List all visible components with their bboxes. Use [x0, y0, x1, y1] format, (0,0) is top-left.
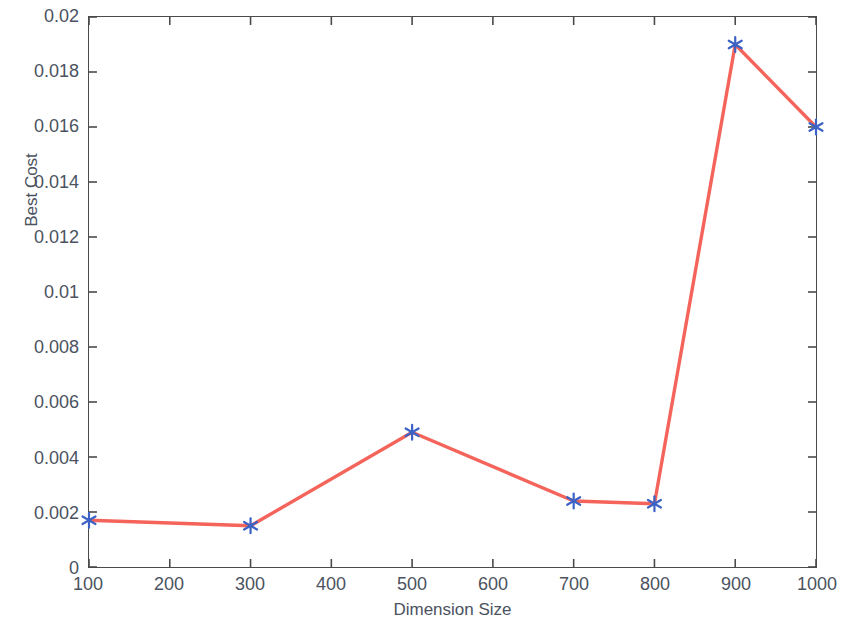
y-tick-label: 0.01 [44, 283, 79, 301]
x-tick-label: 500 [397, 575, 427, 593]
x-tick-label: 600 [478, 575, 508, 593]
y-tick-label: 0.018 [34, 62, 79, 80]
y-tick-label: 0.004 [34, 449, 79, 467]
x-tick-label: 100 [73, 575, 103, 593]
axis-ticks [89, 17, 816, 567]
y-tick-label: 0.014 [34, 173, 79, 191]
x-axis-title: Dimension Size [88, 600, 817, 620]
chart-figure: Best Cost 00.0020.0040.0060.0080.010.012… [0, 0, 842, 628]
x-tick-label: 1000 [797, 575, 837, 593]
data-line-best-cost [89, 45, 816, 526]
x-tick-label: 300 [235, 575, 265, 593]
x-axis-tick-labels: 1002003004005006007008009001000 [88, 575, 817, 599]
data-markers [83, 37, 823, 533]
y-axis-tick-labels: 00.0020.0040.0060.0080.010.0120.0140.016… [0, 16, 79, 568]
y-tick-label: 0.008 [34, 338, 79, 356]
x-tick-label: 700 [559, 575, 589, 593]
x-tick-label: 400 [316, 575, 346, 593]
y-tick-label: 0.002 [34, 504, 79, 522]
plot-svg [89, 17, 816, 567]
data-point-marker [406, 425, 419, 440]
x-tick-label: 900 [721, 575, 751, 593]
y-tick-label: 0.006 [34, 393, 79, 411]
y-tick-label: 0.02 [44, 7, 79, 25]
x-tick-label: 200 [154, 575, 184, 593]
plot-area [88, 16, 817, 568]
y-tick-label: 0.016 [34, 117, 79, 135]
x-tick-label: 800 [640, 575, 670, 593]
y-tick-label: 0.012 [34, 228, 79, 246]
